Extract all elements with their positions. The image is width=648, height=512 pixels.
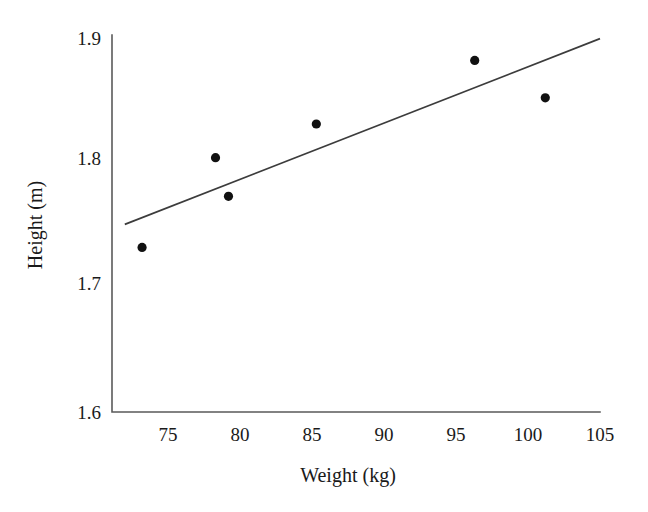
y-tick-label-3: 1.9 bbox=[77, 28, 101, 49]
trend-line-group bbox=[125, 39, 600, 225]
data-point bbox=[312, 119, 321, 128]
x-axis-title: Weight (kg) bbox=[300, 464, 396, 487]
regression-trend-line bbox=[125, 39, 600, 225]
y-tick-label-1: 1.7 bbox=[77, 273, 101, 294]
axis-lines bbox=[112, 35, 600, 412]
x-tick-label-0: 75 bbox=[159, 424, 178, 445]
data-point bbox=[541, 93, 550, 102]
x-tick-label-2: 85 bbox=[303, 424, 322, 445]
scatter-plot-figure: 1.9 1.8 1.7 1.6 75 80 85 90 95 100 105 W… bbox=[0, 0, 648, 512]
x-tick-label-3: 90 bbox=[375, 424, 394, 445]
y-tick-label-0: 1.6 bbox=[77, 402, 101, 423]
data-point bbox=[224, 192, 233, 201]
data-points-group bbox=[137, 56, 549, 252]
data-point bbox=[211, 153, 220, 162]
y-tick-label-2: 1.8 bbox=[77, 148, 101, 169]
x-tick-label-4: 95 bbox=[447, 424, 466, 445]
y-axis-title: Height (m) bbox=[24, 181, 47, 269]
data-point bbox=[137, 243, 146, 252]
chart-canvas: 1.9 1.8 1.7 1.6 75 80 85 90 95 100 105 W… bbox=[0, 0, 648, 512]
data-point bbox=[470, 56, 479, 65]
x-tick-label-1: 80 bbox=[231, 424, 250, 445]
x-tick-label-5: 100 bbox=[514, 424, 543, 445]
x-tick-label-6: 105 bbox=[586, 424, 615, 445]
